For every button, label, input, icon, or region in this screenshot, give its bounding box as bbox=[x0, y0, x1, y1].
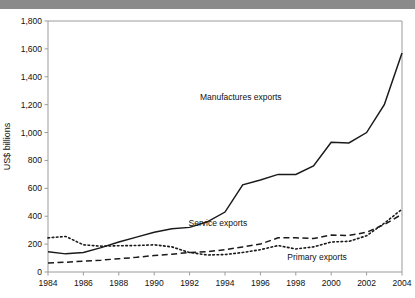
x-tick-label: 2000 bbox=[322, 278, 341, 288]
x-tick-label: 1984 bbox=[39, 278, 58, 288]
x-tick-label: 1988 bbox=[109, 278, 128, 288]
x-tick-label: 1994 bbox=[216, 278, 235, 288]
x-tick-label: 1992 bbox=[180, 278, 199, 288]
y-tick-label: 1,400 bbox=[21, 72, 43, 82]
y-tick-label: 600 bbox=[28, 183, 42, 193]
line-chart: 02004006008001,0001,2001,4001,6001,800 1… bbox=[0, 9, 415, 298]
series-label-primary-exports: Primary exports bbox=[287, 252, 347, 262]
y-tick-label: 1,200 bbox=[21, 100, 43, 110]
y-tick-label: 200 bbox=[28, 239, 42, 249]
x-axis-tick-labels: 1984198619881990199219941996199820002002… bbox=[39, 278, 412, 288]
plot-border bbox=[48, 21, 402, 272]
chart-container: 02004006008001,0001,2001,4001,6001,800 1… bbox=[0, 9, 415, 298]
clipped-header-band bbox=[0, 0, 415, 9]
x-tick-label: 2004 bbox=[393, 278, 412, 288]
y-tick-label: 0 bbox=[37, 267, 42, 277]
y-axis-tick-labels: 02004006008001,0001,2001,4001,6001,800 bbox=[21, 16, 43, 277]
series-label-service-exports: Service exports bbox=[189, 218, 248, 228]
series-label-manufactures-exports: Manufactures exports bbox=[200, 92, 282, 102]
data-series-group bbox=[48, 53, 402, 263]
x-tick-label: 1998 bbox=[286, 278, 305, 288]
x-tick-label: 1986 bbox=[74, 278, 93, 288]
x-tick-label: 2002 bbox=[357, 278, 376, 288]
y-tick-label: 1,000 bbox=[21, 128, 43, 138]
x-tick-label: 1990 bbox=[145, 278, 164, 288]
y-tick-label: 1,600 bbox=[21, 44, 43, 54]
y-tick-label: 1,800 bbox=[21, 16, 43, 26]
x-tick-label: 1996 bbox=[251, 278, 270, 288]
y-axis-ticks bbox=[45, 21, 49, 272]
plot-frame bbox=[48, 21, 402, 272]
x-axis-ticks bbox=[48, 272, 402, 276]
y-axis-title: US$ billions bbox=[2, 122, 12, 170]
y-tick-label: 800 bbox=[28, 155, 42, 165]
y-tick-label: 400 bbox=[28, 211, 42, 221]
